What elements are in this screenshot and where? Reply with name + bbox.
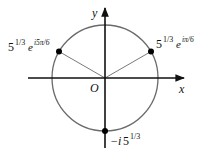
x-axis-label: x: [178, 82, 185, 96]
label-base: 5: [123, 134, 129, 148]
label-exponent: 1/3: [130, 132, 140, 141]
point-root-5pi-6: [56, 49, 62, 55]
y-axis-label: y: [91, 6, 98, 20]
label-e: e: [28, 41, 33, 53]
label-base: 5: [8, 40, 14, 54]
diagram-canvas: y x O 5 1/3 e iπ/6 5 1/3 e i5π/6 −i 5 1/…: [0, 0, 201, 156]
ray-5pi-6: [59, 52, 105, 79]
complex-plane-diagram: y x O 5 1/3 e iπ/6 5 1/3 e i5π/6 −i 5 1/…: [0, 0, 201, 156]
label-base: 5: [156, 37, 162, 51]
origin-label: O: [90, 81, 99, 95]
label-e-exponent: i5π/6: [34, 38, 50, 47]
label-e: e: [176, 38, 181, 50]
label-root-5pi-6: 5 1/3 e i5π/6: [8, 38, 50, 54]
label-root-neg-i: −i 5 1/3: [110, 132, 140, 148]
ray-pi-6: [105, 52, 151, 79]
label-e-exponent: iπ/6: [182, 35, 194, 44]
label-prefix: −i: [110, 134, 121, 148]
point-root-neg-i: [102, 128, 108, 134]
label-root-pi-6: 5 1/3 e iπ/6: [156, 35, 194, 51]
point-root-pi-6: [148, 49, 154, 55]
label-exponent: 1/3: [163, 35, 173, 44]
label-exponent: 1/3: [15, 38, 25, 47]
